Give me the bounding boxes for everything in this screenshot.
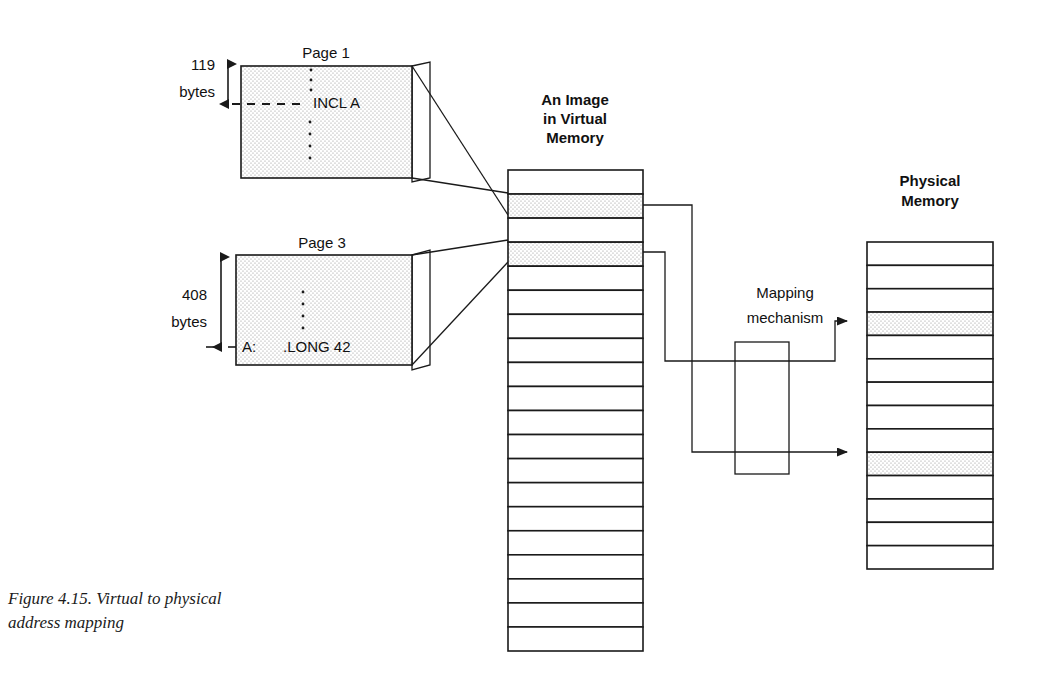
physical-memory-title-line1: Physical [900, 172, 961, 189]
virtual-memory-title-line1: An Image [541, 91, 609, 108]
figure-caption-line1: Figure 4.15. Virtual to physical [7, 589, 222, 608]
virtual-memory-row-19 [508, 603, 643, 627]
virtual-memory-row-5 [508, 266, 643, 290]
virtual-memory-row-6 [508, 290, 643, 314]
virtual-memory-row-1 [508, 170, 643, 194]
virtual-memory-group: An Image in Virtual Memory [508, 91, 643, 651]
physical-memory-row-8 [867, 406, 993, 429]
virtual-memory-row-10 [508, 386, 643, 410]
page-1-title: Page 1 [302, 44, 350, 61]
mapping-mechanism-title-line2: mechanism [747, 309, 824, 326]
page-1-size-unit: bytes [179, 83, 215, 100]
page-1-size-value: 119 [191, 56, 215, 73]
physical-memory-row-9 [867, 429, 993, 452]
physical-memory-row-11 [867, 476, 993, 499]
physical-memory-row-10-shaded [867, 452, 993, 475]
virtual-to-physical-address-mapping-figure: Page 1 INCL A 119 bytes Page 3 [0, 0, 1037, 694]
virtual-memory-row-13 [508, 459, 643, 483]
page-3-code: .LONG 42 [283, 338, 351, 355]
page-1-box [241, 66, 412, 178]
page-1-code: INCL A [313, 94, 360, 111]
virtual-memory-row-8 [508, 338, 643, 362]
virtual-memory-row-14 [508, 483, 643, 507]
page-3-code-label: A: [242, 338, 256, 355]
virtual-memory-row-18 [508, 579, 643, 603]
figure-caption-line2: address mapping [8, 613, 124, 632]
virtual-memory-row-12 [508, 435, 643, 459]
virtual-memory-row-9 [508, 362, 643, 386]
virtual-memory-title-line2: in Virtual [543, 110, 607, 127]
page-3-title: Page 3 [298, 234, 346, 251]
virtual-memory-row-20 [508, 627, 643, 651]
virtual-memory-row-11 [508, 411, 643, 435]
physical-memory-row-13 [867, 522, 993, 545]
virtual-memory-row-16 [508, 531, 643, 555]
virtual-memory-rows [508, 170, 643, 651]
virtual-memory-row-2-shaded [508, 194, 643, 218]
virtual-memory-row-17 [508, 555, 643, 579]
physical-memory-row-6 [867, 359, 993, 382]
virtual-memory-row-7 [508, 314, 643, 338]
physical-memory-row-14 [867, 546, 993, 569]
physical-memory-row-12 [867, 499, 993, 522]
virtual-memory-title-line3: Memory [546, 129, 604, 146]
physical-memory-row-7 [867, 382, 993, 405]
physical-memory-row-4-shaded [867, 312, 993, 335]
page-3-size-value: 408 [182, 286, 207, 303]
mapping-mechanism-title-line1: Mapping [756, 284, 814, 301]
virtual-memory-row-15 [508, 507, 643, 531]
physical-memory-row-5 [867, 335, 993, 358]
virtual-memory-row-4-shaded [508, 242, 643, 266]
physical-memory-row-3 [867, 289, 993, 312]
physical-memory-row-2 [867, 265, 993, 288]
page-3-size-unit: bytes [171, 313, 207, 330]
physical-memory-rows [867, 242, 993, 569]
physical-memory-title-line2: Memory [901, 192, 959, 209]
physical-memory-row-1 [867, 242, 993, 265]
virtual-memory-row-3 [508, 218, 643, 242]
